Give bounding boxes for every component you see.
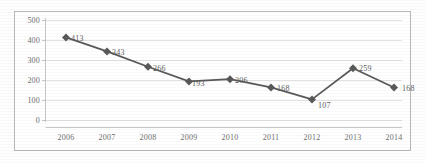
- chart-frame-border: [14, 11, 411, 151]
- data-label-2012: 107: [318, 101, 331, 110]
- y-tick-label-300: 300: [14, 56, 40, 65]
- x-tick-label-2010: 2010: [212, 133, 248, 142]
- data-label-2009: 193: [192, 79, 205, 88]
- data-label-2006: 413: [71, 34, 84, 43]
- data-label-2010: 206: [235, 76, 248, 85]
- x-tick-label-2014: 2014: [376, 133, 412, 142]
- data-label-2013: 259: [359, 64, 372, 73]
- x-tick-label-2011: 2011: [253, 133, 289, 142]
- data-label-2007: 343: [112, 48, 125, 57]
- y-tick-label-100: 100: [14, 96, 40, 105]
- x-tick-label-2006: 2006: [48, 133, 84, 142]
- x-tick-label-2009: 2009: [171, 133, 207, 142]
- y-tick-label-500: 500: [14, 16, 40, 25]
- x-tick-label-2013: 2013: [335, 133, 371, 142]
- x-tick-label-2008: 2008: [130, 133, 166, 142]
- data-label-2011: 168: [277, 84, 290, 93]
- y-tick-label-200: 200: [14, 76, 40, 85]
- chart-container: 500 400 300 200 100 0 2006 2007 2008 200…: [0, 0, 426, 163]
- x-tick-label-2012: 2012: [294, 133, 330, 142]
- data-label-2008: 266: [153, 64, 166, 73]
- y-tick-label-400: 400: [14, 36, 40, 45]
- y-tick-label-0: 0: [14, 116, 40, 125]
- data-label-2014: 168: [402, 84, 415, 93]
- x-tick-label-2007: 2007: [89, 133, 125, 142]
